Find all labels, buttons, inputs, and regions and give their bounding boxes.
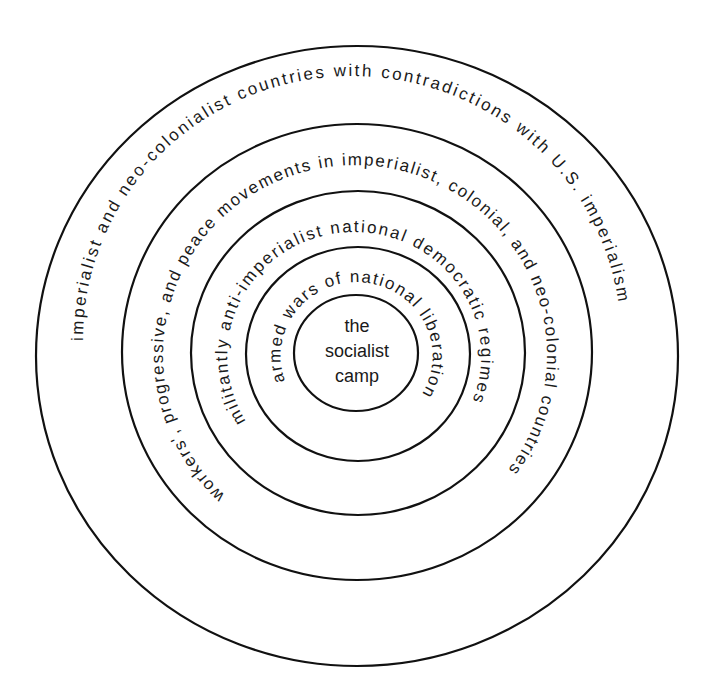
center-label-line-1: the (344, 316, 369, 336)
concentric-circles-diagram: imperialist and neo-colonialist countrie… (0, 0, 706, 691)
center-label-line-2: socialist (325, 341, 389, 361)
center-label-line-3: camp (335, 366, 379, 386)
